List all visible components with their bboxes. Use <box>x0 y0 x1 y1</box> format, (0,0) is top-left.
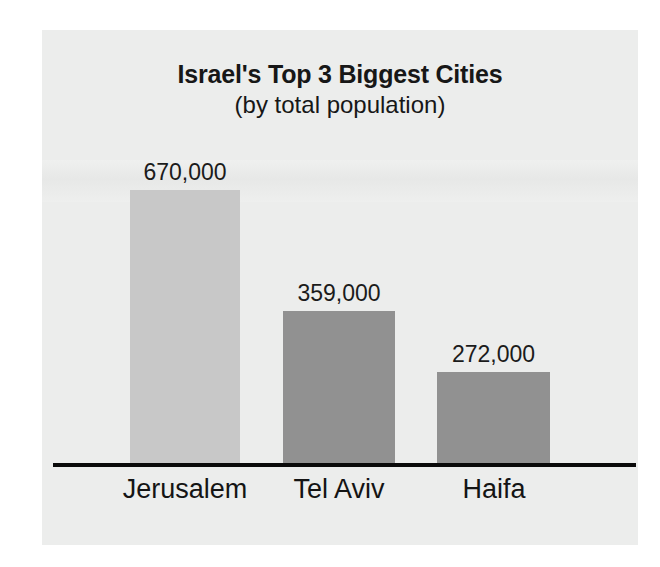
x-tick-label-jerusalem: Jerusalem <box>110 473 260 507</box>
bar-group-jerusalem[interactable]: 670,000 <box>130 190 240 463</box>
bar-haifa[interactable] <box>437 372 550 463</box>
x-tick-label-haifa: Haifa <box>433 473 555 507</box>
bar-group-tel-aviv[interactable]: 359,000 <box>283 311 395 463</box>
bar-group-haifa[interactable]: 272,000 <box>437 372 550 463</box>
x-tick-label-tel-aviv: Tel Aviv <box>274 473 404 507</box>
x-axis-baseline <box>53 463 636 467</box>
chart-figure: Israel's Top 3 Biggest Cities (by total … <box>42 30 638 545</box>
bar-tel-aviv[interactable] <box>283 311 395 463</box>
chart-subtitle: (by total population) <box>42 91 638 120</box>
bar-jerusalem[interactable] <box>130 190 240 463</box>
bar-value-tel-aviv: 359,000 <box>297 282 380 305</box>
plot-area: 670,000 359,000 272,000 <box>42 150 638 463</box>
chart-title-block: Israel's Top 3 Biggest Cities (by total … <box>42 60 638 120</box>
bar-value-jerusalem: 670,000 <box>143 161 226 184</box>
page-title: Israel's Top 3 Biggest Cities <box>42 60 638 88</box>
bar-value-haifa: 272,000 <box>452 343 535 366</box>
